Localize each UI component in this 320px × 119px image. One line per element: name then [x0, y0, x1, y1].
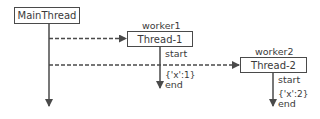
worker2-end-label: end	[278, 98, 296, 109]
worker1-name: worker1	[142, 20, 180, 31]
worker2-name: worker2	[255, 46, 293, 57]
main-thread-label: MainThread	[18, 10, 77, 21]
worker1-end-label: end	[165, 79, 183, 90]
thread2-box: Thread-2	[240, 57, 307, 73]
worker1-start-label: start	[165, 48, 187, 59]
main-thread-box: MainThread	[14, 7, 80, 24]
thread2-label: Thread-2	[251, 60, 296, 71]
thread1-box: Thread-1	[127, 31, 193, 47]
worker2-start-label: start	[278, 74, 300, 85]
thread1-label: Thread-1	[138, 34, 183, 45]
